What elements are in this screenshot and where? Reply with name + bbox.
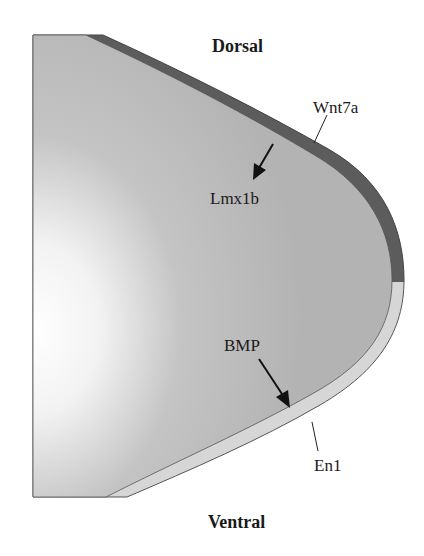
en1-leader-line [312, 422, 318, 451]
lmx1b-label: Lmx1b [210, 189, 259, 208]
ventral-label: Ventral [208, 512, 265, 532]
limb-bud-diagram: Dorsal Ventral Wnt7a Lmx1b BMP En1 [0, 0, 424, 556]
en1-label: En1 [314, 456, 341, 475]
wnt7a-label: Wnt7a [313, 98, 359, 117]
dorsal-label: Dorsal [212, 36, 263, 56]
bmp-label: BMP [224, 336, 260, 355]
wnt7a-leader-line [314, 115, 327, 143]
